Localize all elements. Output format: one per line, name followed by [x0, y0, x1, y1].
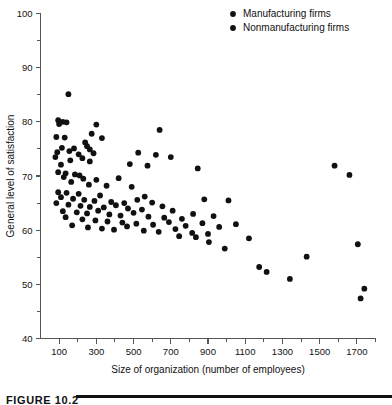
y-tick-label: 60: [22, 225, 33, 236]
y-axis-title: General level of satisfaction: [5, 115, 16, 238]
scatter-plot: 4050607080901001003005007009001100130015…: [0, 0, 392, 405]
data-point: [150, 222, 156, 228]
data-point: [87, 204, 93, 210]
data-point: [58, 194, 64, 200]
data-point: [304, 254, 310, 260]
data-point: [179, 216, 185, 222]
data-point: [157, 127, 163, 133]
data-point: [93, 122, 99, 128]
data-point: [53, 134, 59, 140]
data-point: [201, 196, 207, 202]
data-point: [129, 184, 135, 190]
data-point: [56, 121, 62, 127]
data-point: [149, 200, 155, 206]
data-point: [118, 213, 124, 219]
data-point: [80, 176, 86, 182]
chart-legend: Manufacturing firmsNonmanufacturing firm…: [230, 8, 349, 33]
data-point: [216, 224, 222, 230]
data-point: [74, 209, 80, 215]
data-point: [233, 221, 239, 227]
data-point: [55, 169, 61, 175]
data-point: [66, 91, 72, 97]
data-point: [52, 154, 58, 160]
data-point: [85, 225, 91, 231]
data-point: [66, 148, 72, 154]
data-point: [125, 206, 131, 212]
data-point: [121, 200, 127, 206]
data-point: [92, 198, 98, 204]
series-1: [52, 91, 352, 203]
data-point: [211, 213, 217, 219]
data-point: [168, 154, 174, 160]
data-point: [106, 212, 112, 218]
data-point: [146, 214, 152, 220]
data-point: [111, 227, 117, 233]
data-point: [105, 219, 111, 225]
data-point: [206, 239, 212, 245]
data-point: [176, 233, 182, 239]
data-point: [53, 200, 59, 206]
data-point: [156, 229, 162, 235]
x-tick-label: 700: [163, 346, 179, 357]
data-point: [332, 163, 338, 169]
caption-label: FIGURE 10.2: [6, 394, 79, 405]
data-point: [68, 179, 74, 185]
data-point: [160, 203, 166, 209]
data-point: [89, 131, 95, 137]
x-tick-label: 100: [51, 346, 67, 357]
data-point: [200, 220, 206, 226]
y-tick-label: 90: [22, 62, 33, 73]
legend-label-2: Nonmanufacturing firms: [243, 22, 349, 33]
data-point: [76, 191, 82, 197]
data-point: [104, 183, 110, 189]
data-point: [141, 228, 147, 234]
data-point: [81, 197, 87, 203]
data-point: [133, 221, 139, 227]
data-point: [99, 135, 105, 141]
data-point: [222, 246, 228, 252]
data-point: [264, 269, 270, 275]
data-point: [183, 223, 189, 229]
x-tick-label: 1700: [346, 346, 367, 357]
data-point: [78, 203, 84, 209]
data-point: [91, 150, 97, 156]
data-point: [226, 197, 232, 203]
data-point: [355, 241, 361, 247]
x-tick-label: 1500: [309, 346, 330, 357]
y-tick-label: 100: [17, 8, 33, 19]
data-point: [190, 211, 196, 217]
data-point: [79, 216, 85, 222]
data-point: [135, 150, 141, 156]
data-point: [287, 276, 293, 282]
data-points-group: [52, 91, 367, 301]
data-point: [87, 158, 93, 164]
legend-marker-1: [230, 11, 236, 17]
data-point: [193, 234, 199, 240]
data-point: [116, 175, 122, 181]
data-point: [86, 182, 92, 188]
data-point: [84, 210, 90, 216]
data-point: [69, 222, 75, 228]
data-point: [93, 177, 99, 183]
figure-caption: FIGURE 10.2: [6, 394, 392, 405]
legend-marker-2: [230, 25, 236, 31]
data-point: [95, 208, 101, 214]
data-point: [99, 226, 105, 232]
data-point: [119, 220, 125, 226]
figure-container: 4050607080901001003005007009001100130015…: [0, 0, 392, 405]
data-point: [64, 190, 70, 196]
data-point: [79, 155, 85, 161]
data-point: [63, 214, 69, 220]
data-point: [97, 193, 103, 199]
data-point: [145, 163, 151, 169]
data-point: [70, 196, 76, 202]
data-point: [256, 264, 262, 270]
data-point: [124, 223, 130, 229]
data-point: [113, 202, 119, 208]
data-point: [62, 135, 68, 141]
data-point: [166, 219, 172, 225]
data-point: [66, 202, 72, 208]
data-point: [161, 215, 167, 221]
data-point: [139, 207, 145, 213]
data-point: [127, 161, 133, 167]
